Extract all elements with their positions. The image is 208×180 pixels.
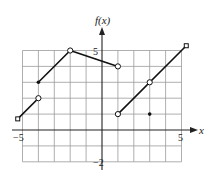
open-point [115,64,120,69]
endpoint-arrow-icon [16,117,20,121]
y-tick-min-label: −2 [93,157,104,168]
open-point [147,80,152,85]
y-axis-label: f(x) [95,14,111,27]
endpoint-arrow-icon [184,44,188,48]
open-point [115,112,120,117]
open-point [36,96,41,101]
segment-1 [18,98,39,119]
segment-4 [118,46,186,114]
function-graph: f(x) x −5 5 5 −2 [0,0,208,180]
closed-point [148,112,152,116]
closed-point [37,81,41,85]
x-tick-max-label: 5 [178,132,183,143]
y-axis-arrow-icon [99,27,105,35]
x-axis-arrow-icon [190,127,198,133]
y-tick-max-label: 5 [93,46,98,57]
x-axis-label: x [198,124,204,136]
x-tick-min-label: −5 [13,132,24,143]
open-point [68,48,73,53]
